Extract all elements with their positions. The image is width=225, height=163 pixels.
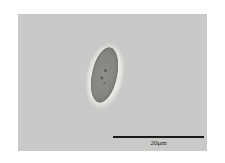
cell-granule bbox=[104, 69, 108, 73]
scale-bar bbox=[113, 136, 204, 138]
cell-granule bbox=[100, 76, 104, 80]
cell-granule bbox=[103, 82, 105, 84]
micrograph-frame bbox=[18, 14, 207, 151]
scale-bar-label: 20μm bbox=[113, 139, 204, 148]
